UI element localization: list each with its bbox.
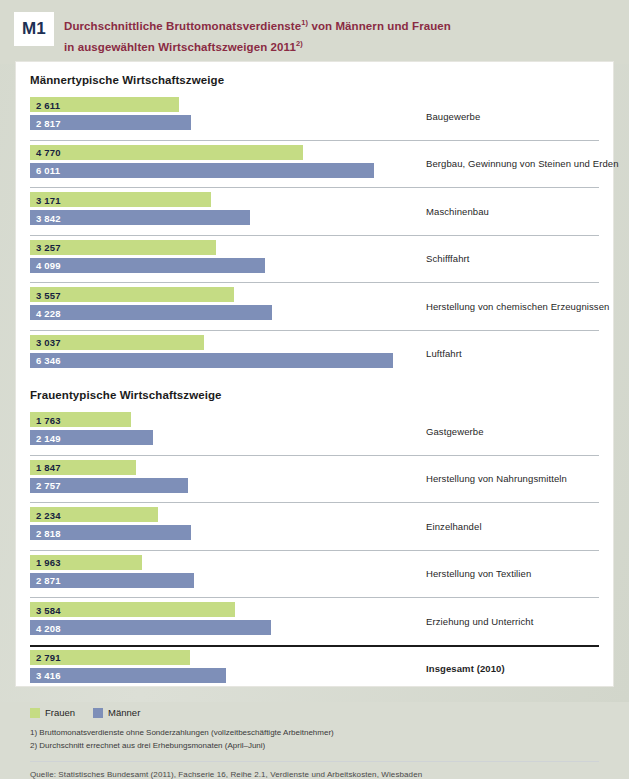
row-bars: 2 7913 416	[30, 650, 402, 686]
row-divider	[30, 187, 599, 188]
chart-row: 3 0376 346Luftfahrt	[30, 330, 599, 378]
category-label: Schifffahrt	[426, 253, 470, 264]
row-bars: 3 5844 208	[30, 602, 402, 638]
row-bars: 1 9632 871	[30, 555, 402, 591]
legend-swatch-maenner-icon	[93, 708, 103, 718]
chart-row: 3 1713 842Maschinenbau	[30, 187, 599, 235]
section-heading: Männertypische Wirtschaftszweige	[30, 62, 599, 92]
title-text-2: von Männern und Frauen	[308, 20, 451, 32]
category-label: Bergbau, Gewinnung von Steinen und Erden	[426, 158, 619, 169]
bar-frauen: 2 234	[30, 507, 158, 522]
row-divider	[30, 455, 599, 456]
row-bars: 2 2342 818	[30, 507, 402, 543]
bar-maenner: 4 099	[30, 258, 265, 273]
row-divider	[30, 282, 599, 283]
bar-frauen: 3 257	[30, 240, 216, 255]
bar-value-frauen: 1 963	[36, 557, 61, 568]
chart-row: 3 2574 099Schifffahrt	[30, 235, 599, 283]
bar-value-frauen: 2 791	[36, 652, 61, 663]
category-label: Baugewerbe	[426, 110, 480, 121]
bar-value-maenner: 4 228	[36, 307, 61, 318]
source-divider	[30, 761, 599, 762]
bar-frauen: 1 963	[30, 555, 142, 570]
bar-value-maenner: 2 149	[36, 432, 61, 443]
bar-maenner: 3 842	[30, 210, 250, 225]
category-label: Maschinenbau	[426, 205, 489, 216]
legend-item-frauen: Frauen	[30, 707, 75, 718]
bar-maenner: 6 011	[30, 163, 374, 178]
bar-maenner: 2 818	[30, 525, 191, 540]
bar-value-maenner: 3 416	[36, 670, 61, 681]
row-divider	[30, 597, 599, 598]
bar-maenner: 6 346	[30, 353, 393, 368]
row-divider	[30, 235, 599, 236]
bar-value-maenner: 2 818	[36, 527, 61, 538]
page-title: Durchschnittliche Bruttomonatsverdienste…	[64, 14, 614, 56]
title-text-3: in ausgewählten Wirtschaftszweigen 2011	[64, 41, 296, 53]
bar-frauen: 4 770	[30, 145, 303, 160]
category-label: Herstellung von chemischen Erzeugnissen	[426, 300, 609, 311]
legend-label-frauen: Frauen	[45, 707, 75, 718]
row-bars: 3 2574 099	[30, 240, 402, 276]
bar-value-frauen: 2 611	[36, 99, 60, 110]
bar-value-maenner: 4 208	[36, 622, 61, 633]
bar-value-maenner: 6 011	[36, 165, 60, 176]
row-bars: 2 6112 817	[30, 97, 402, 133]
row-bars: 3 5574 228	[30, 287, 402, 323]
bar-frauen: 2 611	[30, 97, 179, 112]
title-text-1: Durchschnittliche Bruttomonatsverdienste	[64, 20, 301, 32]
bar-value-frauen: 3 557	[36, 289, 61, 300]
bar-value-maenner: 4 099	[36, 260, 61, 271]
title-footnote-marker-2: 2)	[296, 39, 303, 48]
source-line: Quelle: Statistisches Bundesamt (2011), …	[30, 770, 599, 779]
footnote-1: 1) Bruttomonatsverdienste ohne Sonderzah…	[30, 727, 599, 740]
bar-maenner: 4 228	[30, 305, 272, 320]
chart-row: 2 2342 818Einzelhandel	[30, 502, 599, 550]
bar-value-frauen: 3 584	[36, 604, 61, 615]
chart-card: Männertypische Wirtschaftszweige2 6112 8…	[16, 62, 613, 686]
category-label: Herstellung von Textilien	[426, 568, 531, 579]
bar-maenner: 3 416	[30, 668, 226, 683]
legend-swatch-frauen-icon	[30, 708, 40, 718]
chart-row: 4 7706 011Bergbau, Gewinnung von Steinen…	[30, 140, 599, 188]
chart-row: 1 8472 757Herstellung von Nahrungsmittel…	[30, 455, 599, 503]
bar-frauen: 3 037	[30, 335, 204, 350]
bar-value-maenner: 6 346	[36, 355, 61, 366]
bar-value-maenner: 2 871	[36, 575, 61, 586]
bar-value-frauen: 4 770	[36, 147, 61, 158]
bar-value-frauen: 3 257	[36, 242, 61, 253]
bar-value-frauen: 1 847	[36, 462, 61, 473]
bar-frauen: 2 791	[30, 650, 190, 665]
bar-value-frauen: 3 037	[36, 337, 61, 348]
bar-maenner: 2 817	[30, 115, 191, 130]
chart-row: 3 5844 208Erziehung und Unterricht	[30, 597, 599, 645]
chart-row: 2 6112 817Baugewerbe	[30, 92, 599, 140]
bar-maenner: 4 208	[30, 620, 271, 635]
bar-maenner: 2 757	[30, 478, 188, 493]
bar-value-maenner: 2 757	[36, 480, 61, 491]
chart-row: 1 9632 871Herstellung von Textilien	[30, 550, 599, 598]
category-label: Herstellung von Nahrungsmitteln	[426, 473, 567, 484]
row-bars: 3 1713 842	[30, 192, 402, 228]
category-label: Gastgewerbe	[426, 425, 484, 436]
bar-value-frauen: 2 234	[36, 509, 61, 520]
row-bars: 3 0376 346	[30, 335, 402, 371]
footnote-2: 2) Durchschnitt errechnet aus drei Erheb…	[30, 740, 599, 753]
chart-body: Männertypische Wirtschaftszweige2 6112 8…	[30, 62, 599, 779]
category-label: Erziehung und Unterricht	[426, 615, 533, 626]
bar-value-maenner: 3 842	[36, 212, 61, 223]
category-label: Einzelhandel	[426, 520, 482, 531]
bar-maenner: 2 871	[30, 573, 194, 588]
chart-legend: Frauen Männer	[30, 699, 599, 718]
chart-row: 3 5574 228Herstellung von chemischen Erz…	[30, 282, 599, 330]
chart-header: M1 Durchschnittliche Bruttomonatsverdien…	[0, 0, 629, 64]
category-label: Luftfahrt	[426, 348, 462, 359]
row-divider	[30, 550, 599, 551]
section-heading: Frauentypische Wirtschaftszweige	[30, 377, 599, 407]
row-bars: 1 7632 149	[30, 412, 402, 448]
footnotes: 1) Bruttomonatsverdienste ohne Sonderzah…	[30, 727, 599, 752]
row-divider	[30, 140, 599, 141]
legend-item-maenner: Männer	[93, 707, 140, 718]
bar-frauen: 1 847	[30, 460, 136, 475]
bar-maenner: 2 149	[30, 430, 153, 445]
